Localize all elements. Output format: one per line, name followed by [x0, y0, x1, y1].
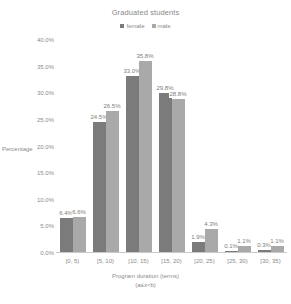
x-axis-title-sub: (a≤x<b) [0, 281, 291, 290]
y-tick-label: 40.0% [37, 37, 54, 43]
bar-male[interactable]: 35.8% [139, 39, 152, 252]
bar-group: 33.0%35.8% [122, 39, 155, 252]
x-tick-label: [0, 5) [56, 258, 89, 264]
bar-rect [225, 251, 238, 252]
bar-rect [271, 246, 284, 252]
y-tick-label: 20.0% [37, 144, 54, 150]
legend-label-female: female [126, 23, 144, 29]
x-axis-ticks: [0, 5)[5, 10)[10, 15)[15, 20)[20, 25)[25… [56, 258, 287, 264]
bar-value-label: 26.5% [103, 102, 121, 110]
legend-item-male[interactable]: male [152, 23, 171, 29]
x-axis-baseline [56, 252, 287, 253]
bar-male[interactable]: 1.1% [271, 39, 284, 252]
x-tick-label: [15, 20) [155, 258, 188, 264]
y-axis-ticks: 0.0%5.0%10.0%15.0%20.0%25.0%30.0%35.0%40… [28, 39, 54, 253]
bar-female[interactable]: 6.4% [60, 39, 73, 252]
bar-value-label: 1.9% [191, 233, 206, 241]
legend-label-male: male [158, 23, 171, 29]
bar-rect [106, 111, 119, 252]
legend-swatch-male-icon [152, 24, 156, 28]
bar-female[interactable]: 33.0% [126, 39, 139, 252]
bar-female[interactable]: 0.3% [258, 39, 271, 252]
plot-area: 6.4%6.6%24.5%26.5%33.0%35.8%29.8%28.8%1.… [56, 39, 287, 253]
chart-title: Graduated students [0, 8, 291, 17]
legend-swatch-female-icon [120, 24, 124, 28]
graduated-students-chart: Graduated students female male Percentag… [0, 0, 291, 304]
bar-group: 24.5%26.5% [89, 39, 122, 252]
bar-value-label: 28.8% [169, 90, 187, 98]
bar-group: 29.8%28.8% [155, 39, 188, 252]
chart-legend: female male [0, 23, 291, 29]
bar-value-label: 1.1% [237, 237, 252, 245]
bar-rect [258, 250, 271, 252]
bar-female[interactable]: 24.5% [93, 39, 106, 252]
y-tick-label: 35.0% [37, 64, 54, 70]
bar-male[interactable]: 6.6% [73, 39, 86, 252]
bar-group: 6.4%6.6% [56, 39, 89, 252]
x-tick-label: [30, 35) [254, 258, 287, 264]
bar-female[interactable]: 0.1% [225, 39, 238, 252]
x-tick-label: [25, 30) [221, 258, 254, 264]
y-tick-label: 5.0% [40, 223, 54, 229]
bar-rect [205, 229, 218, 252]
bar-female[interactable]: 29.8% [159, 39, 172, 252]
bar-rect [73, 217, 86, 252]
bar-male[interactable]: 4.3% [205, 39, 218, 252]
y-tick-label: 0.0% [40, 250, 54, 256]
x-tick-label: [20, 25) [188, 258, 221, 264]
x-tick-label: [5, 10) [89, 258, 122, 264]
x-axis-title-main: Program duration (terms) [0, 272, 291, 281]
bar-rect [238, 246, 251, 252]
bar-value-label: 6.6% [72, 208, 87, 216]
bar-rect [93, 122, 106, 252]
bar-male[interactable]: 1.1% [238, 39, 251, 252]
bar-group: 0.1%1.1% [221, 39, 254, 252]
y-tick-label: 10.0% [37, 197, 54, 203]
legend-item-female[interactable]: female [120, 23, 144, 29]
bar-value-label: 4.3% [204, 220, 219, 228]
y-tick-label: 25.0% [37, 117, 54, 123]
bar-value-label: 35.8% [136, 52, 154, 60]
bar-value-label: 1.1% [270, 237, 285, 245]
bar-groups: 6.4%6.6%24.5%26.5%33.0%35.8%29.8%28.8%1.… [56, 39, 287, 252]
bar-male[interactable]: 28.8% [172, 39, 185, 252]
bar-rect [192, 242, 205, 252]
bar-male[interactable]: 26.5% [106, 39, 119, 252]
bar-rect [172, 99, 185, 252]
bar-group: 1.9%4.3% [188, 39, 221, 252]
bar-rect [159, 93, 172, 252]
bar-rect [126, 76, 139, 252]
x-tick-label: [10, 15) [122, 258, 155, 264]
bar-group: 0.3%1.1% [254, 39, 287, 252]
bar-female[interactable]: 1.9% [192, 39, 205, 252]
y-tick-label: 15.0% [37, 170, 54, 176]
x-axis-title: Program duration (terms) (a≤x<b) [0, 272, 291, 290]
bar-rect [60, 218, 73, 252]
bar-rect [139, 61, 152, 252]
y-tick-label: 30.0% [37, 90, 54, 96]
